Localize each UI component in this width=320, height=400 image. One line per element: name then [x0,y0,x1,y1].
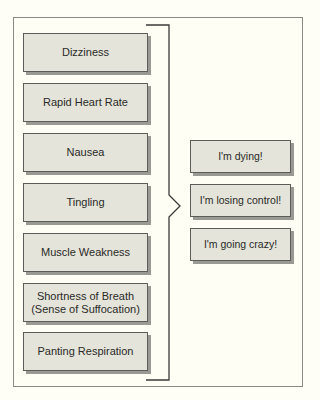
symptom-box-dizziness: Dizziness [23,33,148,72]
symptom-box-rapid-heart-rate: Rapid Heart Rate [23,83,148,122]
thought-box-losing-control: I'm losing control! [190,184,291,217]
symptom-box-panting-respiration: Panting Respiration [23,332,148,371]
symptom-label: Rapid Heart Rate [43,96,128,109]
symptom-label: Tingling [66,196,104,209]
thought-box-dying: I'm dying! [190,140,291,173]
thought-box-going-crazy: I'm going crazy! [190,228,291,261]
thought-label: I'm losing control! [200,194,281,207]
symptom-box-tingling: Tingling [23,183,148,222]
symptom-label: Muscle Weakness [41,246,130,259]
symptom-label: Shortness of Breath (Sense of Suffocatio… [31,290,140,316]
symptom-box-nausea: Nausea [23,133,148,172]
symptom-box-muscle-weakness: Muscle Weakness [23,233,148,272]
symptom-label: Panting Respiration [37,345,133,358]
symptom-box-shortness-of-breath: Shortness of Breath (Sense of Suffocatio… [23,283,148,322]
thought-label: I'm dying! [218,150,263,163]
thought-label: I'm going crazy! [204,238,277,251]
symptom-label: Nausea [67,146,105,159]
symptom-label: Dizziness [62,46,109,59]
